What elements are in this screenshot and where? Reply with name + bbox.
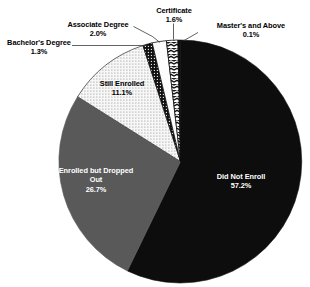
slice-label-text-still-enrolled: Still Enrolled xyxy=(82,79,162,88)
slice-label-text-did-not-enroll: Did Not Enroll xyxy=(202,172,280,181)
callout-certificate: Certificate 1.6% xyxy=(146,6,202,25)
callout-associate-degree: Associate Degree 2.0% xyxy=(60,20,136,39)
slice-value-did-not-enroll: 57.2% xyxy=(202,181,280,190)
slice-label-did-not-enroll: Did Not Enroll 57.2% xyxy=(202,172,280,191)
slice-label-still-enrolled: Still Enrolled 11.1% xyxy=(82,79,162,98)
callout-label-associate-degree: Associate Degree xyxy=(60,20,136,29)
callout-label-certificate: Certificate xyxy=(146,6,202,15)
slice-label-text-dropped-out-line2: Out xyxy=(48,175,144,184)
leader-line-masters-and-above xyxy=(184,33,198,41)
slice-value-still-enrolled: 11.1% xyxy=(82,88,162,97)
callout-label-masters-and-above: Master's and Above xyxy=(204,21,298,30)
pie-chart-figure: Bachelor's Degree 1.3% Associate Degree … xyxy=(0,0,310,287)
callout-value-certificate: 1.6% xyxy=(146,15,202,24)
callout-masters-and-above: Master's and Above 0.1% xyxy=(204,21,298,40)
callout-value-bachelors-degree: 1.3% xyxy=(2,47,76,56)
leader-line-associate-degree xyxy=(134,27,161,43)
slice-value-enrolled-but-dropped-out: 26.7% xyxy=(48,185,144,194)
callout-label-bachelors-degree: Bachelor's Degree xyxy=(2,38,76,47)
callout-value-associate-degree: 2.0% xyxy=(60,29,136,38)
callout-value-masters-and-above: 0.1% xyxy=(204,30,298,39)
callout-bachelors-degree: Bachelor's Degree 1.3% xyxy=(2,38,76,57)
slice-label-enrolled-but-dropped-out: Enrolled but Dropped Out 26.7% xyxy=(48,166,144,194)
slice-label-text-dropped-out-line1: Enrolled but Dropped xyxy=(48,166,144,175)
